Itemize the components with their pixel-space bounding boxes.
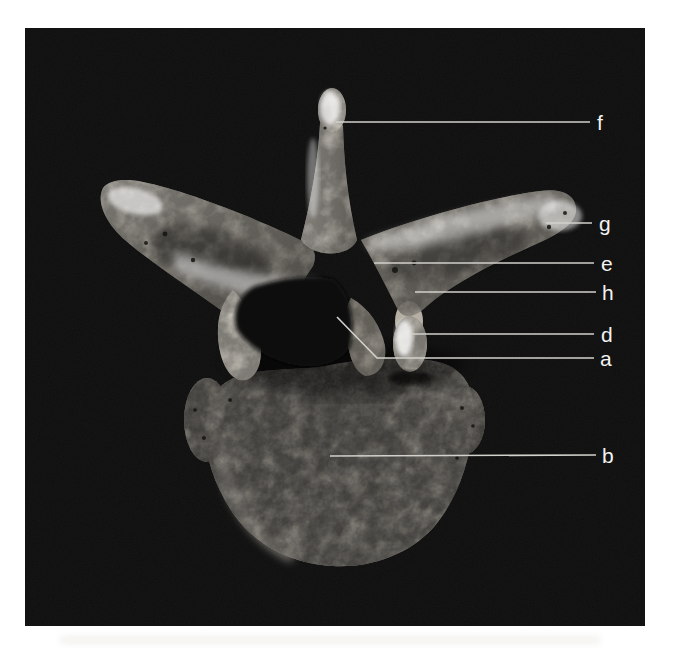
specimen-photo: fgehdab — [25, 28, 645, 626]
label-f: f — [597, 111, 603, 134]
page-smudge — [60, 636, 600, 644]
label-e: e — [601, 252, 613, 275]
leader-line-b — [330, 455, 596, 456]
label-g: g — [599, 212, 611, 235]
label-h: h — [602, 281, 614, 304]
label-d: d — [601, 323, 613, 346]
label-a: a — [600, 347, 612, 370]
leader-line-a — [337, 317, 594, 358]
figure-page: fgehdab — [0, 0, 678, 648]
label-b: b — [602, 444, 614, 467]
annotation-layer: fgehdab — [25, 28, 645, 626]
